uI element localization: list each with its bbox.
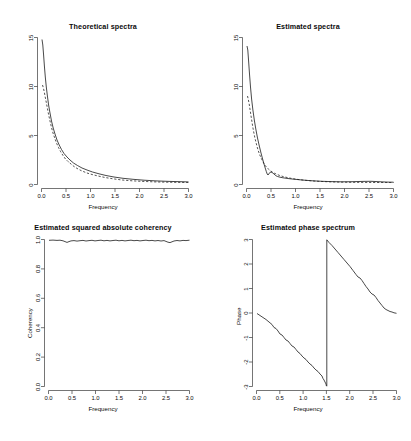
x-axis-label: Frequency — [0, 405, 206, 412]
x-tick-label: 3.0 — [389, 193, 397, 199]
y-tick-label: 10 — [28, 83, 34, 90]
y-tick-label: 10 — [233, 83, 239, 90]
x-tick-label: 1.5 — [111, 193, 119, 199]
plot-area — [205, 0, 411, 220]
x-axis-label: Frequency — [0, 203, 206, 210]
x-axis-ticks — [49, 391, 190, 395]
x-tick-label: 1.0 — [299, 395, 307, 401]
theoretical-spectra-svg — [0, 0, 206, 220]
x-tick-label: 0.0 — [37, 193, 45, 199]
panel-estimated-coherency: Estimated squared absolute coherency 1.0… — [0, 220, 206, 441]
estimated-spectra-svg — [205, 0, 411, 220]
x-tick-label: 0.5 — [267, 193, 275, 199]
y-tick-label: 0.6 — [35, 294, 41, 302]
phase-curve-branch-2 — [327, 240, 397, 313]
x-tick-label: 0.5 — [62, 193, 70, 199]
panel-theoretical-spectra: Theoretical spectra 15 10 5 0 0.0 0.5 1.… — [0, 0, 206, 220]
y-axis-ticks — [249, 240, 253, 387]
x-tick-label: 0.0 — [242, 193, 250, 199]
y-tick-label: 3 — [243, 238, 249, 241]
panel-estimated-phase: Estimated phase spectrum 3 2 1 0 -1 -2 -… — [205, 220, 411, 441]
x-tick-label: 2.5 — [162, 395, 170, 401]
x-axis-label: Frequency — [205, 203, 411, 210]
y-tick-label: 1 — [243, 287, 249, 290]
y-tick-label: 5 — [28, 134, 34, 137]
estimated-spectrum-solid-curve — [247, 46, 394, 182]
y-axis-label: Coherency — [26, 308, 33, 338]
x-tick-label: 1.0 — [86, 193, 94, 199]
y-axis-ticks — [41, 240, 45, 387]
x-tick-label: 1.5 — [322, 395, 330, 401]
x-tick-label: 0.0 — [44, 395, 52, 401]
y-tick-label: -3 — [243, 384, 249, 389]
y-tick-label: 0.8 — [35, 265, 41, 273]
spectrum-solid-curve — [42, 40, 189, 182]
y-axis-ticks — [34, 38, 38, 185]
y-axis-ticks — [239, 38, 243, 185]
x-tick-label: 3.0 — [185, 395, 193, 401]
x-tick-label: 1.5 — [115, 395, 123, 401]
y-tick-label: 0 — [28, 183, 34, 186]
y-tick-label: -1 — [243, 335, 249, 340]
estimated-spectrum-dashed-curve — [248, 96, 394, 183]
x-axis-label: Frequency — [205, 405, 411, 412]
x-tick-label: 0.5 — [68, 395, 76, 401]
y-tick-label: 15 — [233, 34, 239, 41]
plot-area — [0, 0, 206, 220]
x-tick-label: 0.0 — [252, 395, 260, 401]
x-axis-ticks — [257, 391, 397, 395]
x-axis-ticks — [247, 189, 394, 193]
y-tick-label: 0 — [233, 183, 239, 186]
y-tick-label: 15 — [28, 34, 34, 41]
x-tick-label: 2.0 — [346, 395, 354, 401]
panel-estimated-spectra: Estimated spectra 15 10 5 0 0.0 0.5 1.0 … — [205, 0, 411, 220]
y-axis-label: Phase — [235, 307, 242, 325]
y-tick-label: 0.2 — [35, 353, 41, 361]
figure-canvas: Theoretical spectra 15 10 5 0 0.0 0.5 1.… — [0, 0, 411, 441]
spectrum-dashed-curve — [43, 85, 189, 183]
x-tick-label: 1.0 — [291, 193, 299, 199]
y-tick-label: 5 — [233, 134, 239, 137]
coherency-curve — [49, 240, 190, 243]
x-tick-label: 1.5 — [316, 193, 324, 199]
x-tick-label: 1.0 — [91, 395, 99, 401]
x-tick-label: 2.5 — [365, 193, 373, 199]
y-tick-label: -2 — [243, 359, 249, 364]
x-tick-label: 3.0 — [392, 395, 400, 401]
y-tick-label: 0.4 — [35, 324, 41, 332]
y-tick-label: 2 — [243, 262, 249, 265]
x-tick-label: 2.5 — [369, 395, 377, 401]
x-tick-label: 2.0 — [138, 395, 146, 401]
x-tick-label: 3.0 — [184, 193, 192, 199]
x-tick-label: 0.5 — [276, 395, 284, 401]
y-tick-label: 0.0 — [35, 382, 41, 390]
x-tick-label: 2.0 — [340, 193, 348, 199]
y-tick-label: 0 — [243, 311, 249, 314]
x-tick-label: 2.0 — [135, 193, 143, 199]
x-tick-label: 2.5 — [160, 193, 168, 199]
phase-curve-branch-1 — [257, 314, 326, 387]
y-tick-label: 1.0 — [35, 235, 41, 243]
x-axis-ticks — [42, 189, 189, 193]
